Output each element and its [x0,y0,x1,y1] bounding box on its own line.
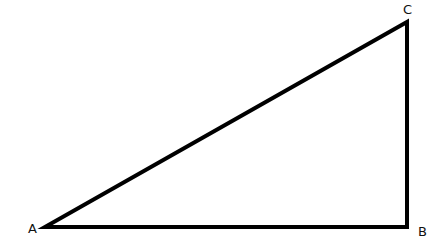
vertex-label-c: C [403,2,412,17]
vertex-label-b: B [418,224,427,239]
triangle-abc [45,22,407,227]
vertex-label-a: A [28,221,37,236]
triangle-diagram: A B C [0,0,445,243]
